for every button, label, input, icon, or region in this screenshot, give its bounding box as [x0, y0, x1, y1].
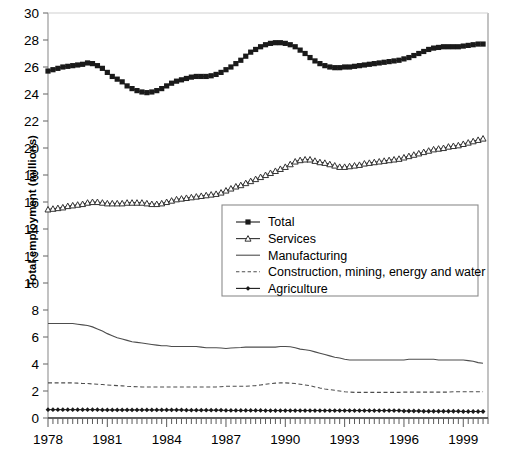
x-tick-label: 1990	[270, 432, 300, 447]
data-marker	[263, 42, 268, 47]
data-marker	[332, 408, 337, 413]
data-marker	[411, 53, 416, 58]
data-marker	[85, 60, 90, 65]
data-marker	[298, 48, 303, 53]
data-marker	[233, 408, 238, 413]
data-marker	[134, 88, 139, 93]
data-marker	[441, 409, 446, 414]
data-marker	[288, 408, 293, 413]
data-marker	[125, 83, 130, 88]
data-marker	[332, 65, 337, 70]
data-marker	[283, 408, 288, 413]
data-marker	[357, 63, 362, 68]
data-marker	[451, 44, 456, 49]
data-marker	[357, 408, 362, 413]
data-marker	[60, 64, 65, 69]
data-marker	[129, 86, 134, 91]
data-marker	[372, 61, 377, 66]
data-marker	[70, 407, 75, 412]
legend-label: Services	[268, 232, 316, 246]
data-marker	[298, 408, 303, 413]
data-marker	[471, 409, 476, 414]
data-marker	[144, 90, 149, 95]
data-marker	[169, 408, 174, 413]
data-marker	[95, 63, 100, 68]
data-marker	[258, 44, 263, 49]
data-marker	[377, 60, 382, 65]
data-marker	[456, 44, 461, 49]
data-marker	[184, 408, 189, 413]
data-marker	[65, 64, 70, 69]
data-marker	[50, 67, 55, 72]
data-marker	[120, 408, 125, 413]
x-axis-ticks: 19781981198419871990199319961999	[33, 418, 488, 447]
x-tick-label: 1993	[330, 432, 360, 447]
data-marker	[406, 409, 411, 414]
y-tick-label: 26	[24, 60, 39, 75]
series-2	[45, 136, 486, 212]
data-marker	[45, 68, 50, 73]
data-marker	[229, 408, 234, 413]
data-marker	[352, 408, 357, 413]
data-marker	[218, 70, 223, 75]
series-line	[48, 383, 483, 392]
data-marker	[130, 408, 135, 413]
data-marker	[245, 219, 250, 224]
data-marker	[352, 64, 357, 69]
data-marker	[480, 136, 486, 142]
data-marker	[149, 89, 154, 94]
data-marker	[149, 408, 154, 413]
x-tick-label: 1999	[448, 432, 478, 447]
data-marker	[253, 408, 258, 413]
data-marker	[426, 47, 431, 52]
data-marker	[337, 408, 342, 413]
data-marker	[322, 63, 327, 68]
data-marker	[288, 42, 293, 47]
data-marker	[302, 51, 307, 56]
data-marker	[293, 44, 298, 49]
data-marker	[224, 408, 229, 413]
data-marker	[313, 408, 318, 413]
data-marker	[456, 409, 461, 414]
data-marker	[461, 43, 466, 48]
data-marker	[273, 408, 278, 413]
data-marker	[377, 408, 382, 413]
data-marker	[233, 61, 238, 66]
series-line	[48, 324, 483, 364]
data-marker	[189, 75, 194, 80]
data-marker	[312, 58, 317, 63]
legend-item-4[interactable]: Construction, mining, energy and water	[236, 265, 485, 279]
data-marker	[402, 409, 407, 414]
data-marker	[426, 409, 431, 414]
data-marker	[391, 58, 396, 63]
data-marker	[411, 409, 416, 414]
data-marker	[327, 408, 332, 413]
data-marker	[307, 55, 312, 60]
data-marker	[100, 408, 105, 413]
y-axis-title: Total employment (millions)	[26, 81, 38, 341]
data-marker	[461, 409, 466, 414]
data-marker	[199, 74, 204, 79]
y-tick-label: 0	[31, 411, 39, 426]
data-marker	[105, 408, 110, 413]
y-tick-label: 28	[24, 33, 39, 48]
data-marker	[85, 407, 90, 412]
data-marker	[342, 408, 347, 413]
data-marker	[382, 60, 387, 65]
data-marker	[396, 58, 401, 63]
data-marker	[100, 66, 105, 71]
data-marker	[431, 409, 436, 414]
data-marker	[238, 58, 243, 63]
data-marker	[471, 42, 476, 47]
data-marker	[80, 62, 85, 67]
data-marker	[273, 40, 278, 45]
data-marker	[219, 408, 224, 413]
data-marker	[213, 72, 218, 77]
data-marker	[140, 408, 145, 413]
data-marker	[431, 46, 436, 51]
data-marker	[283, 41, 288, 46]
x-tick-label: 1984	[152, 432, 183, 447]
legend-label: Manufacturing	[268, 249, 347, 263]
data-marker	[115, 77, 120, 82]
x-tick-label: 1981	[92, 432, 122, 447]
